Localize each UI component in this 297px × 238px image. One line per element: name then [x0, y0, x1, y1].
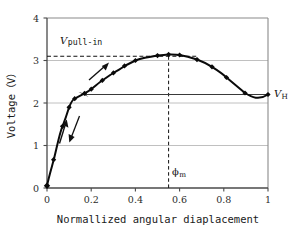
v-pull-in-label: Vpull-in: [60, 35, 102, 47]
x-tick-label-0: 0: [44, 194, 50, 205]
phi-m-label-sub: m: [179, 170, 186, 179]
voltage-vs-displacement-chart: 0 1 2 3 4 0 0.2 0.4 0.6 0.8 1 Normallize…: [0, 0, 297, 238]
x-tick-label-0p4: 0.4: [128, 194, 143, 205]
y-tick-label-2: 2: [33, 98, 39, 109]
x-tick-label-0p8: 0.8: [216, 194, 231, 205]
phi-m-label-main: ϕ: [172, 166, 179, 177]
y-tick-label-0: 0: [33, 183, 39, 194]
x-tick-label-1: 1: [265, 194, 271, 205]
y-tick-label-3: 3: [33, 55, 39, 66]
x-tick-label-0p2: 0.2: [84, 194, 99, 205]
v-h-label-sub: H: [282, 92, 288, 101]
chart-figure: 0 1 2 3 4 0 0.2 0.4 0.6 0.8 1 Normallize…: [0, 0, 297, 238]
x-tick-label-0p6: 0.6: [172, 194, 187, 205]
y-axis-title: Voltage（V）: [5, 68, 17, 139]
v-pull-in-label-sub: pull-in: [68, 37, 103, 47]
y-tick-label-4: 4: [33, 13, 39, 24]
y-tick-label-1: 1: [33, 140, 39, 151]
x-axis-title: Normallized angular diaplacement: [57, 213, 259, 225]
